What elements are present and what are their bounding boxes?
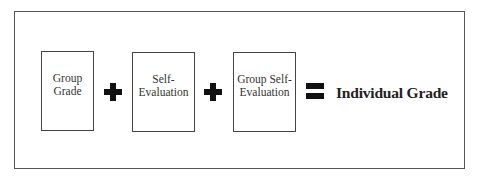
group-grade-label-line2: Grade: [42, 85, 93, 98]
plus-icon: [204, 83, 222, 101]
equals-icon: [306, 83, 324, 99]
self-evaluation-label-line2: Evaluation: [133, 86, 194, 99]
plus-icon: [104, 83, 122, 101]
group-self-evaluation-label-line1: Group Self-: [234, 73, 295, 86]
group-grade-box: Group Grade: [41, 51, 94, 131]
group-grade-label-line1: Group: [42, 72, 93, 85]
group-self-evaluation-label-line2: Evaluation: [234, 86, 295, 99]
self-evaluation-label-line1: Self-: [133, 73, 194, 86]
group-self-evaluation-box: Group Self- Evaluation: [233, 52, 296, 132]
self-evaluation-box: Self- Evaluation: [132, 52, 195, 132]
individual-grade-result: Individual Grade: [336, 84, 448, 102]
